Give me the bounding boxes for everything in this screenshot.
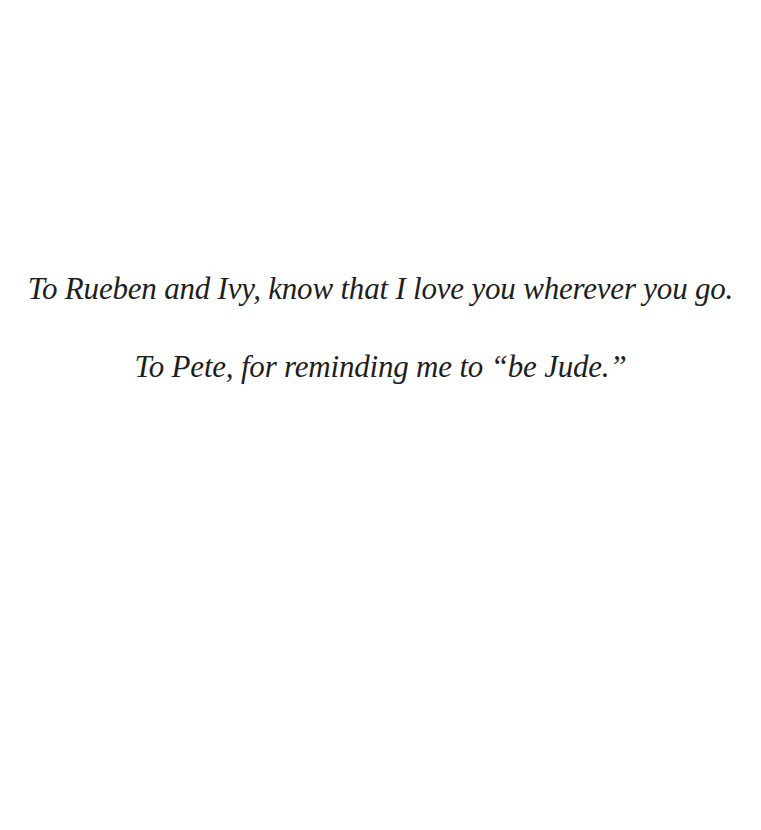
dedication-page: To Rueben and Ivy, know that I love you … xyxy=(0,0,761,830)
dedication-line-1: To Rueben and Ivy, know that I love you … xyxy=(0,269,761,309)
dedication-line-2: To Pete, for reminding me to “be Jude.” xyxy=(0,347,761,387)
